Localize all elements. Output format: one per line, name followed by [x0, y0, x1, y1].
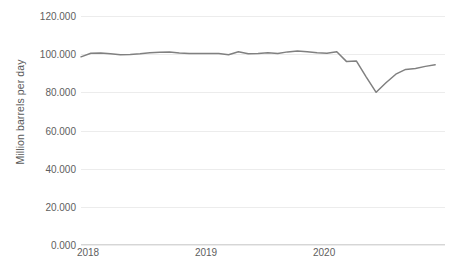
y-tick-label: 100.000	[18, 49, 76, 60]
x-tick-label-2020: 2020	[313, 247, 335, 258]
y-tick-label: 0.000	[18, 240, 76, 251]
y-tick-label: 80.000	[18, 87, 76, 98]
y-tick-label: 40.000	[18, 163, 76, 174]
x-tick-label-2018: 2018	[77, 247, 99, 258]
x-axis-tick-labels: 201820192020	[81, 247, 445, 263]
x-tick-label-2019: 2019	[195, 247, 217, 258]
y-tick-label: 60.000	[18, 125, 76, 136]
y-axis-tick-labels: 0.00020.00040.00060.00080.000100.000120.…	[18, 0, 76, 277]
y-tick-label: 20.000	[18, 201, 76, 212]
gridline-0-000	[81, 245, 445, 246]
plot-area	[81, 16, 445, 245]
line-chart: Million barrels per day 0.00020.00040.00…	[0, 0, 453, 277]
y-tick-label: 120.000	[18, 11, 76, 22]
series-line-world-oil-supply	[81, 16, 445, 245]
bottom-caption	[8, 268, 268, 277]
